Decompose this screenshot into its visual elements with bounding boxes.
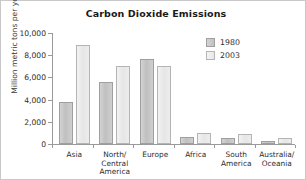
x-tick-mark [174, 145, 175, 148]
bar-group [261, 33, 292, 144]
y-tick-label: 2,000 [24, 117, 46, 126]
x-tick-mark [295, 145, 296, 148]
y-axis-line [52, 33, 53, 145]
x-tick-mark [255, 145, 256, 148]
bar-group [99, 33, 130, 144]
bar-1980[interactable] [59, 102, 73, 144]
y-tick-label: 4,000 [24, 95, 46, 104]
bar-2003[interactable] [157, 66, 171, 144]
bar-2003[interactable] [197, 133, 211, 144]
category-label-line: America [87, 168, 143, 177]
bar-2003[interactable] [116, 66, 130, 144]
x-tick-mark [214, 145, 215, 148]
y-tick-label: 8,000 [24, 51, 46, 60]
category-label-line: Oceania [249, 160, 305, 169]
bar-1980[interactable] [140, 59, 154, 144]
bar-2003[interactable] [76, 45, 90, 144]
legend-swatch-1980 [206, 38, 215, 47]
legend-label-2003: 2003 [220, 51, 240, 60]
bar-group [59, 33, 90, 144]
legend-swatch-2003 [206, 51, 215, 60]
y-axis-title: Million metric tons per year [10, 0, 19, 97]
legend-item-1980[interactable]: 1980 [206, 37, 240, 48]
legend-item-2003[interactable]: 2003 [206, 50, 240, 61]
y-tick-mark [48, 100, 52, 101]
y-tick-mark [48, 33, 52, 34]
y-tick-label: 0 [41, 140, 46, 149]
x-tick-mark [133, 145, 134, 148]
bar-1980[interactable] [99, 82, 113, 144]
bar-2003[interactable] [278, 138, 292, 144]
bar-group [140, 33, 171, 144]
y-tick-label: 6,000 [24, 73, 46, 82]
chart-legend: 1980 2003 [206, 37, 240, 63]
y-tick-mark [48, 77, 52, 78]
category-label: Australia/Oceania [249, 151, 305, 168]
bar-2003[interactable] [238, 134, 252, 144]
plot-area: 10,0008,0006,0004,0002,0000 AsiaNorth/Ce… [52, 33, 295, 145]
bar-1980[interactable] [180, 137, 194, 144]
y-tick-mark [48, 122, 52, 123]
bar-1980[interactable] [261, 141, 275, 144]
x-tick-mark [52, 145, 53, 148]
chart-figure: Carbon Dioxide Emissions Million metric … [0, 0, 306, 180]
y-tick-label: 10,000 [19, 29, 46, 38]
y-tick-mark [48, 55, 52, 56]
x-tick-mark [93, 145, 94, 148]
bar-1980[interactable] [221, 138, 235, 144]
chart-title: Carbon Dioxide Emissions [1, 8, 305, 19]
legend-label-1980: 1980 [220, 38, 240, 47]
